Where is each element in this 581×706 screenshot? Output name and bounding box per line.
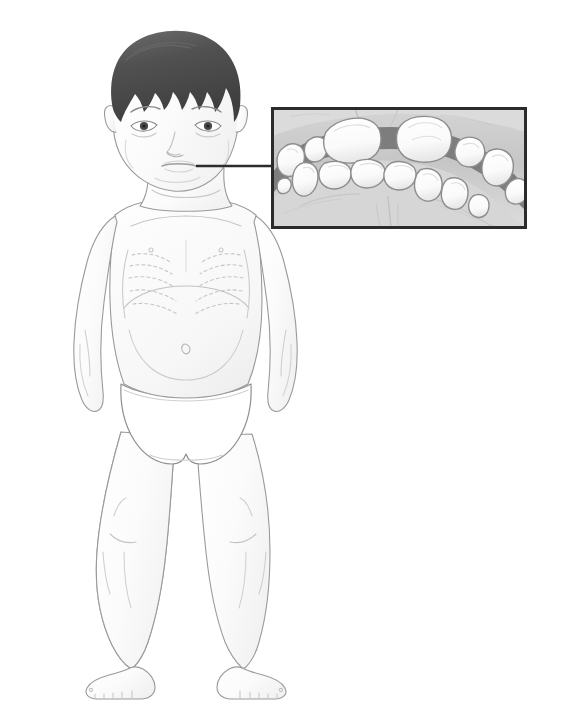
illustration-canvas [0, 0, 581, 706]
dental-detail-callout [273, 109, 529, 228]
tooth-upper-5 [455, 137, 485, 167]
tooth-lower-8 [469, 195, 489, 218]
tooth-lower-1 [277, 178, 291, 194]
torso [110, 197, 262, 398]
clinical-illustration-figure: Clinical features of rickets in a young … [0, 0, 581, 706]
